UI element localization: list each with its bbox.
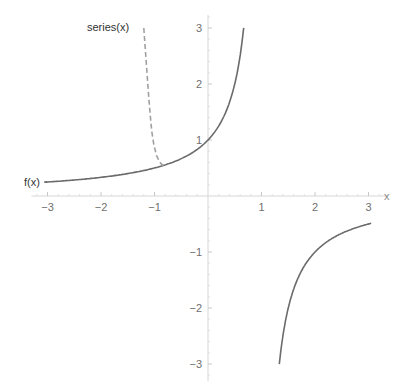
legend-label-series: series(x) bbox=[87, 21, 129, 33]
labels: x f(x) series(x) bbox=[24, 21, 390, 202]
series-curve bbox=[144, 28, 167, 166]
x-tick-label: 3 bbox=[365, 201, 371, 213]
x-tick-label: −3 bbox=[41, 201, 54, 213]
y-tick-label: 2 bbox=[196, 78, 202, 90]
x-tick-label: 2 bbox=[312, 201, 318, 213]
y-tick-label: 1 bbox=[196, 134, 202, 146]
x-tick-label: 1 bbox=[258, 201, 264, 213]
f-curve-segment-1 bbox=[279, 223, 371, 364]
x-tick-label: −2 bbox=[95, 201, 108, 213]
axes: −3−2−1123−3−2−1123 bbox=[31, 15, 386, 381]
x-axis-label: x bbox=[384, 190, 390, 202]
chart: −3−2−1123−3−2−1123 x f(x) series(x) bbox=[0, 0, 405, 384]
f-curve-segment-0 bbox=[45, 28, 244, 182]
legend-label-f: f(x) bbox=[24, 176, 40, 188]
y-tick-label: −2 bbox=[189, 302, 202, 314]
y-tick-label: 3 bbox=[196, 22, 202, 34]
x-tick-label: −1 bbox=[148, 201, 161, 213]
y-tick-label: −3 bbox=[189, 358, 202, 370]
y-tick-label: −1 bbox=[189, 246, 202, 258]
